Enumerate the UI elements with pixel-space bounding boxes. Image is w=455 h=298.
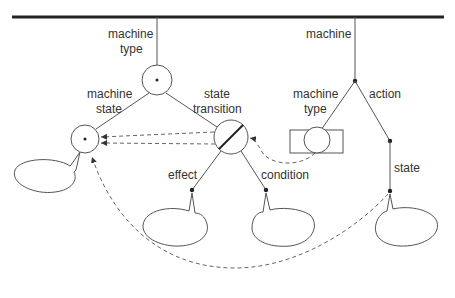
machine-type-label-line2: type bbox=[120, 42, 143, 56]
state-transition-node bbox=[214, 120, 248, 154]
effect-dot bbox=[190, 188, 194, 192]
condition-bubble bbox=[252, 193, 314, 246]
effect-bubble bbox=[143, 193, 207, 246]
machine-state-bubble bbox=[14, 152, 80, 192]
machine-type-node bbox=[142, 65, 172, 95]
machine-state-label-line1: machine bbox=[87, 87, 133, 101]
machine-type-right-label-line2: type bbox=[304, 102, 327, 116]
machine-state-label-line2: state bbox=[96, 102, 122, 116]
machine-label: machine bbox=[306, 27, 352, 41]
reference-transition-to-state-2 bbox=[101, 143, 215, 144]
state-dot bbox=[388, 189, 392, 193]
condition-dot bbox=[264, 188, 268, 192]
condition-label: condition bbox=[261, 168, 309, 182]
state-transition-label-line2: transition bbox=[193, 102, 242, 116]
state-transition-label-line1: state bbox=[204, 87, 230, 101]
machine-state-node bbox=[71, 125, 99, 153]
reference-state-to-machinestate bbox=[92, 157, 388, 268]
action-label: action bbox=[369, 87, 401, 101]
machine-type-right-label-line1: machine bbox=[293, 87, 339, 101]
reference-transition-to-state-1 bbox=[101, 132, 214, 137]
object-structure-diagram: machine type machine state state transit… bbox=[0, 0, 455, 298]
machine-type-label-line1: machine bbox=[108, 27, 154, 41]
machine-type-box bbox=[290, 127, 343, 153]
effect-label: effect bbox=[168, 168, 198, 182]
state-label: state bbox=[394, 161, 420, 175]
state-bubble bbox=[375, 194, 437, 246]
